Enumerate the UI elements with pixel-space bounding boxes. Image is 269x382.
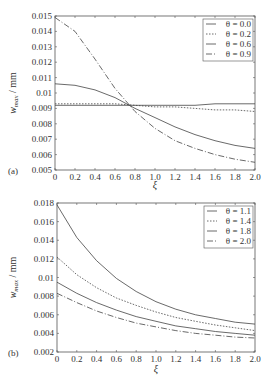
y-tick-label: 0.009 xyxy=(32,103,53,113)
legend-entry: θ = 0.6 xyxy=(226,39,252,49)
figure: 00.20.40.60.81.01.21.41.61.82.00.0050.00… xyxy=(0,0,269,382)
y-tick-label: 0.012 xyxy=(34,254,54,264)
x-tick-label: 1.6 xyxy=(209,172,221,182)
x-axis-label: ξ xyxy=(154,363,159,375)
y-tick-label: 0.012 xyxy=(32,57,52,67)
y-tick-label: 0.01 xyxy=(38,273,54,283)
x-tick-label: 0.6 xyxy=(109,172,121,182)
legend-entry: θ = 0.0 xyxy=(226,19,252,29)
chart-a: 00.20.40.60.81.01.21.41.61.82.00.0050.00… xyxy=(7,11,261,191)
y-tick-label: 0.007 xyxy=(32,134,53,144)
series-line xyxy=(57,293,255,338)
x-tick-label: 0 xyxy=(55,354,60,364)
y-tick-label: 0.013 xyxy=(32,42,53,52)
y-tick-label: 0.011 xyxy=(32,73,52,83)
y-tick-label: 0.018 xyxy=(34,198,55,208)
x-tick-label: 0.6 xyxy=(111,354,123,364)
y-tick-label: 0.008 xyxy=(34,291,55,301)
x-tick-label: 2.0 xyxy=(249,354,261,364)
legend-entry: θ = 1.8 xyxy=(226,226,252,236)
y-tick-label: 0.005 xyxy=(32,165,53,175)
x-tick-label: 0 xyxy=(53,172,58,182)
y-tick-label: 0.002 xyxy=(34,347,54,357)
series-line xyxy=(57,282,255,335)
legend-entry: θ = 2.0 xyxy=(226,236,252,246)
legend-entry: θ = 0.2 xyxy=(226,29,251,39)
y-tick-label: 0.01 xyxy=(36,88,52,98)
legend-entry: θ = 0.9 xyxy=(226,49,252,59)
y-tick-label: 0.006 xyxy=(34,310,55,320)
x-tick-label: 1.2 xyxy=(170,354,181,364)
x-tick-label: 0.2 xyxy=(71,354,82,364)
x-tick-label: 0.8 xyxy=(129,172,141,182)
x-tick-label: 0.4 xyxy=(89,172,101,182)
x-tick-label: 1.6 xyxy=(210,354,222,364)
series-line xyxy=(55,84,255,149)
x-tick-label: 0.2 xyxy=(69,172,80,182)
x-tick-label: 1.4 xyxy=(190,354,202,364)
y-tick-label: 0.016 xyxy=(34,217,55,227)
x-tick-label: 1.8 xyxy=(230,354,242,364)
x-tick-label: 1.8 xyxy=(229,172,241,182)
y-axis-label: wmax / mm xyxy=(7,256,20,298)
x-tick-label: 0.4 xyxy=(91,354,103,364)
y-axis-label: wmax / mm xyxy=(7,72,20,114)
series-line xyxy=(57,257,255,331)
chart-b: 00.20.40.60.81.01.21.41.61.82.00.0020.00… xyxy=(7,198,261,375)
y-tick-label: 0.004 xyxy=(34,328,55,338)
y-tick-label: 0.015 xyxy=(32,11,53,21)
y-tick-label: 0.008 xyxy=(32,119,53,129)
y-tick-label: 0.014 xyxy=(32,26,53,36)
legend: θ = 0.0θ = 0.2θ = 0.6θ = 0.9 xyxy=(203,19,253,61)
legend-entry: θ = 1.1 xyxy=(226,206,251,216)
x-axis-label: ξ xyxy=(153,179,158,191)
x-tick-label: 0.8 xyxy=(131,354,143,364)
y-tick-label: 0.014 xyxy=(34,235,55,245)
legend-entry: θ = 1.4 xyxy=(226,216,252,226)
x-tick-label: 1.2 xyxy=(169,172,180,182)
x-tick-label: 1.4 xyxy=(189,172,201,182)
x-tick-label: 2.0 xyxy=(249,172,261,182)
legend: θ = 1.1θ = 1.4θ = 1.8θ = 2.0 xyxy=(204,206,253,248)
panel-label: (a) xyxy=(8,166,18,176)
y-tick-label: 0.006 xyxy=(32,150,53,160)
panel-label: (b) xyxy=(8,348,19,358)
